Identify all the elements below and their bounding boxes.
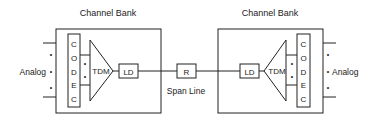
left-codec-letter: E	[71, 81, 76, 90]
right-analog-dot: •	[327, 68, 330, 75]
right-codec-letter: D	[301, 68, 307, 77]
left-ld-label: LD	[123, 68, 133, 77]
right-inner-dot: •	[291, 60, 294, 67]
left-codec-letter: C	[71, 95, 77, 104]
right-tdm-label: TDM	[268, 67, 286, 76]
right-analog-dot: •	[327, 84, 330, 91]
left-analog-dot: •	[50, 51, 53, 58]
channel-bank-diagram: Channel Bank Channel Bank C O D E C • • …	[0, 0, 377, 129]
left-analog-dot: •	[50, 68, 53, 75]
right-codec-letter: C	[301, 95, 307, 104]
right-codec-letter: C	[301, 40, 307, 49]
left-inner-dot: •	[84, 73, 87, 80]
right-analog-label: Analog	[332, 67, 359, 77]
right-codec-letter: E	[301, 81, 306, 90]
left-tdm-label: TDM	[92, 67, 110, 76]
span-line-label: Span Line	[167, 86, 206, 96]
left-codec-letter: D	[71, 68, 77, 77]
right-codec-letter: O	[300, 54, 306, 63]
right-inner-dot: •	[291, 73, 294, 80]
left-codec-letter: O	[71, 54, 77, 63]
left-analog-label: Analog	[20, 67, 47, 77]
left-inner-dot: •	[84, 60, 87, 67]
left-codec-letter: C	[71, 40, 77, 49]
repeater-label: R	[184, 68, 190, 77]
right-analog-dot: •	[327, 51, 330, 58]
right-bank-title: Channel Bank	[242, 8, 299, 18]
left-analog-dot: •	[50, 84, 53, 91]
left-bank-title: Channel Bank	[80, 8, 137, 18]
right-ld-label: LD	[244, 68, 254, 77]
